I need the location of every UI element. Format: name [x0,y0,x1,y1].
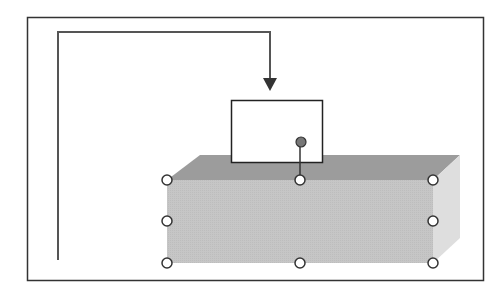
rotate-handle-icon [296,137,306,147]
3d-box-shape[interactable] [167,155,460,263]
text-box[interactable] [232,101,323,163]
box-front-face [167,180,433,263]
diagram-canvas [0,0,504,293]
sizing-handle-middle-left[interactable] [162,216,172,226]
sizing-handle-bottom-left[interactable] [162,258,172,268]
sizing-handle-top-left[interactable] [162,175,172,185]
sizing-handle-bottom-center[interactable] [295,258,305,268]
sizing-handle-bottom-right[interactable] [428,258,438,268]
sizing-handle-top-center[interactable] [295,175,305,185]
sizing-handle-middle-right[interactable] [428,216,438,226]
sizing-handle-top-right[interactable] [428,175,438,185]
